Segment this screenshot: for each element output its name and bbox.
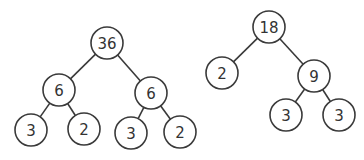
- node-label: 6: [146, 85, 156, 103]
- tree-edge: [138, 107, 144, 118]
- tree-node: 3: [323, 99, 355, 131]
- tree-node: 3: [115, 117, 147, 149]
- tree-node: 6: [43, 74, 75, 106]
- tree-node: 18: [253, 11, 285, 43]
- tree-node: 2: [164, 116, 196, 148]
- nodes-layer: 36663232182933: [15, 11, 355, 149]
- node-label: 18: [259, 19, 278, 37]
- tree-edge: [233, 38, 257, 62]
- node-label: 36: [97, 35, 116, 53]
- tree-edge: [118, 55, 141, 81]
- node-label: 6: [54, 82, 64, 100]
- tree-node: 3: [270, 99, 302, 131]
- tree-edge: [323, 89, 331, 101]
- node-label: 3: [334, 107, 344, 125]
- tree-node: 2: [68, 113, 100, 145]
- node-label: 3: [281, 107, 291, 125]
- tree-node: 2: [206, 57, 238, 89]
- tree-node: 6: [135, 77, 167, 109]
- node-label: 2: [217, 65, 227, 83]
- factor-trees-diagram: 36663232182933: [0, 0, 364, 160]
- node-label: 3: [26, 122, 36, 140]
- node-label: 9: [309, 68, 319, 86]
- tree-node: 3: [15, 114, 47, 146]
- factor-tree-18: 182933: [206, 11, 355, 131]
- tree-node: 9: [298, 60, 330, 92]
- factor-tree-36: 36663232: [15, 27, 196, 149]
- tree-edge: [68, 103, 76, 115]
- tree-edge: [70, 54, 95, 79]
- node-label: 2: [79, 121, 89, 139]
- tree-edge: [40, 103, 50, 117]
- tree-edge: [280, 39, 303, 64]
- node-label: 3: [126, 125, 136, 143]
- tree-edge: [295, 89, 304, 102]
- tree-node: 36: [91, 27, 123, 59]
- node-label: 2: [175, 124, 185, 142]
- tree-edge: [161, 106, 171, 119]
